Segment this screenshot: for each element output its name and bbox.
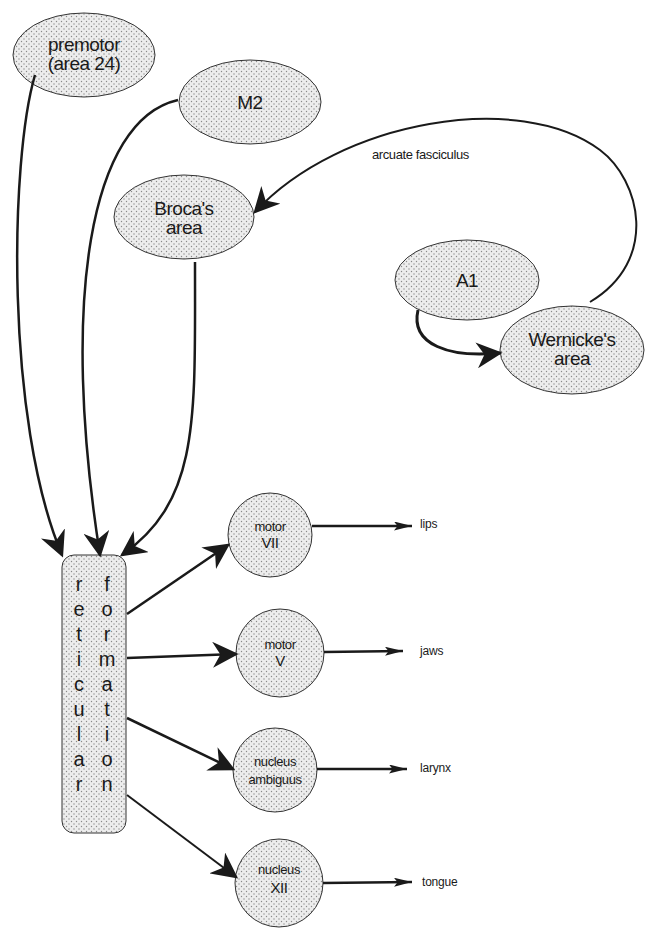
wernicke-label-line2: area [502,349,642,368]
rf-letter: n [101,772,112,797]
edge-motor-v-to-jaws [324,651,403,652]
rf-letter: r [76,772,83,797]
rf-letter: t [76,622,82,647]
premotor-label-line2: (area 24) [34,54,134,73]
rf-letter: r [104,622,111,647]
rf-letter: o [101,597,112,622]
a1-label: A1 [417,271,517,290]
rf-letter: r [76,572,83,597]
reticular-word: r e t i c u l a r [70,572,88,797]
edge-rf-to-motor-vii [127,545,228,614]
nucleus-ambiguus-line1: nucleus [230,755,320,769]
rf-letter: i [77,647,81,672]
target-tongue: tongue [422,876,458,889]
speech-pathway-diagram [0,0,655,946]
target-lips: lips [420,518,437,531]
motor-vii-label: motor VII [230,520,310,552]
rf-letter: t [104,697,110,722]
motor-v-line2: V [240,652,320,670]
nucleus-xii-label: nucleus XII [239,863,319,899]
rf-letter: i [105,722,109,747]
rf-letter: m [99,647,116,672]
nucleus-xii-line1: nucleus [239,863,319,877]
motor-v-label: motor V [240,638,320,670]
nucleus-ambiguus-line2: ambiguus [230,773,320,787]
edge-m2-to-rf [83,100,178,555]
premotor-label: premotor (area 24) [34,35,134,73]
wernicke-label-line1: Wernicke's [502,330,642,349]
edge-rf-to-motor-v [127,654,236,658]
rf-letter: u [73,697,84,722]
target-jaws: jaws [420,645,443,658]
rf-letter: f [104,572,110,597]
formation-word: f o r m a t i o n [96,572,118,797]
rf-letter: e [73,597,84,622]
wernicke-label: Wernicke's area [502,330,642,368]
motor-v-line1: motor [240,638,320,652]
edge-rf-to-nucleus-ambiguus [127,718,233,769]
premotor-label-line1: premotor [34,35,134,54]
nucleus-xii-line2: XII [239,877,319,899]
m2-label: M2 [200,93,300,112]
broca-label-line2: area [124,218,244,237]
edge-nucleus-xii-to-tongue [323,882,412,883]
rf-letter: a [101,672,112,697]
edge-broca-to-rf [122,262,195,555]
rf-letter: a [73,747,84,772]
a1-label-line1: A1 [417,271,517,290]
broca-label-line1: Broca's [124,199,244,218]
m2-label-line1: M2 [200,93,300,112]
arcuate-fasciculus-label: arcuate fasciculus [372,148,469,162]
motor-vii-line1: motor [230,520,310,534]
broca-label: Broca's area [124,199,244,237]
rf-letter: l [77,722,81,747]
rf-letter: c [74,672,84,697]
nucleus-ambiguus-label: nucleus ambiguus [230,755,320,787]
target-larynx: larynx [420,762,451,775]
rf-letter: o [101,747,112,772]
edge-premotor-to-rf [17,75,62,555]
motor-vii-line2: VII [230,534,310,552]
edge-rf-to-nucleus-xii [127,795,236,877]
